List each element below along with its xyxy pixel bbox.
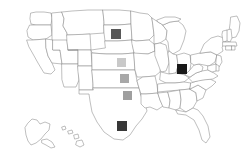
map-marker-nebraska[interactable] <box>117 58 126 67</box>
state-ne <box>91 40 134 54</box>
map-marker-texas[interactable] <box>117 121 127 131</box>
state-ma <box>223 42 237 46</box>
state-vt <box>222 30 227 42</box>
map-marker-kansas[interactable] <box>120 74 129 83</box>
map-marker-oklahoma[interactable] <box>123 91 132 100</box>
state-mt <box>62 10 104 35</box>
map-marker-north-dakota[interactable] <box>111 29 121 39</box>
state-ks <box>92 53 135 70</box>
state-nm <box>78 66 93 90</box>
state-wa <box>30 12 52 25</box>
state-hi-maui <box>74 134 79 139</box>
state-nd <box>103 10 131 25</box>
state-tx <box>79 88 147 140</box>
state-ri <box>232 46 235 50</box>
state-ia <box>132 40 155 54</box>
state-hi-oahu <box>68 130 73 134</box>
state-hi-bigisland <box>76 140 84 147</box>
state-ny <box>200 36 226 55</box>
state-ar <box>137 76 158 94</box>
state-hi-kauai <box>62 126 66 130</box>
state-ak-aleutians <box>42 139 55 148</box>
state-al <box>168 90 181 110</box>
us-map <box>0 0 251 163</box>
state-ok <box>92 70 139 88</box>
state-boundaries <box>25 10 240 148</box>
state-az <box>62 64 79 87</box>
state-fl <box>176 108 210 143</box>
state-wy <box>67 34 91 50</box>
state-mn <box>131 11 154 41</box>
state-nh <box>227 29 232 42</box>
state-pa <box>191 52 217 66</box>
state-ct <box>226 46 232 50</box>
map-marker-ohio[interactable] <box>177 64 187 74</box>
state-or <box>27 25 52 40</box>
